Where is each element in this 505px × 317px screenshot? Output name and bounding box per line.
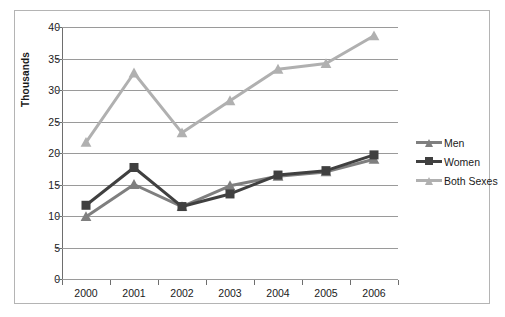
legend-label: Both Sexes: [444, 175, 498, 187]
data-point: [130, 163, 139, 172]
data-point: [369, 30, 380, 40]
data-point: [82, 201, 91, 210]
gridline: [62, 279, 398, 280]
y-axis-tick-mark: [56, 59, 62, 60]
data-point: [322, 166, 331, 175]
legend-label: Men: [444, 137, 464, 149]
data-point: [129, 68, 140, 78]
y-axis-tick-labels: 4035302520151050: [36, 0, 60, 317]
legend-item-men[interactable]: Men: [416, 133, 494, 152]
legend-swatch-icon: [416, 156, 442, 167]
x-axis-tick-label: 2001: [111, 287, 157, 299]
series-both-sexes: [81, 30, 380, 146]
legend-item-both-sexes[interactable]: Both Sexes: [416, 171, 494, 190]
legend-swatch-icon: [416, 137, 442, 148]
x-axis-tick-mark: [254, 280, 255, 285]
x-axis-tick-mark: [206, 280, 207, 285]
x-axis-tick-mark: [302, 280, 303, 285]
x-axis-tick-label: 2006: [351, 287, 397, 299]
x-axis-tick-mark: [158, 280, 159, 285]
series-men: [81, 154, 380, 221]
x-axis-tick-label: 2004: [255, 287, 301, 299]
y-axis-title: Thousands: [20, 34, 36, 124]
chart-container: Thousands 4035302520151050 2000200120022…: [0, 0, 505, 317]
y-axis-tick-mark: [56, 248, 62, 249]
series-line: [86, 36, 374, 142]
data-point: [178, 202, 187, 211]
x-axis-tick-label: 2005: [303, 287, 349, 299]
y-axis-tick-mark: [56, 27, 62, 28]
x-axis-tick-label: 2002: [159, 287, 205, 299]
data-point: [274, 171, 283, 180]
x-axis-tick-mark: [350, 280, 351, 285]
legend-item-women[interactable]: Women: [416, 152, 494, 171]
data-point: [226, 189, 235, 198]
y-axis-tick-mark: [56, 122, 62, 123]
series-layer: [62, 27, 398, 279]
legend-swatch-icon: [416, 175, 442, 186]
legend-label: Women: [444, 156, 480, 168]
x-axis-tick-mark: [62, 280, 63, 285]
data-point: [129, 179, 140, 189]
x-axis-tick-label: 2000: [63, 287, 109, 299]
data-point: [370, 150, 379, 159]
y-axis-tick-mark: [56, 216, 62, 217]
y-axis-tick-mark: [56, 90, 62, 91]
y-axis-tick-mark: [56, 185, 62, 186]
y-axis-tick-mark: [56, 153, 62, 154]
chart-legend: MenWomenBoth Sexes: [416, 133, 494, 190]
x-axis-tick-mark: [110, 280, 111, 285]
x-axis-tick-label: 2003: [207, 287, 253, 299]
x-axis-tick-mark: [398, 280, 399, 285]
